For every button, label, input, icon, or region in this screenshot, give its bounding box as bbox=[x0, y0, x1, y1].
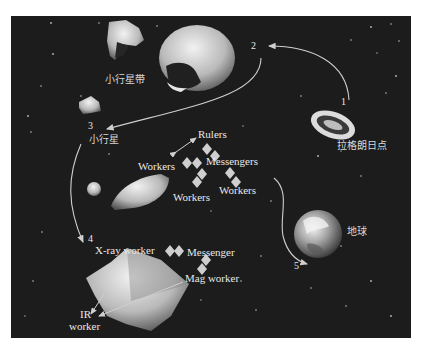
ir-worker-label-line1: IR bbox=[80, 308, 91, 320]
workers-rulers-link bbox=[176, 138, 196, 152]
workers-right-label: Workers bbox=[219, 184, 256, 196]
lagrange-point-label: 拉格朗日点 bbox=[337, 140, 387, 152]
step-3: 3 bbox=[88, 120, 93, 132]
mag-worker-label: Mag worker bbox=[185, 272, 239, 284]
ir-worker-label-line2: worker bbox=[69, 320, 100, 332]
asteroid-rock bbox=[79, 96, 101, 114]
messenger-label: Messenger bbox=[187, 246, 235, 258]
swarm-rock bbox=[111, 174, 169, 210]
diagram-artwork bbox=[11, 16, 411, 338]
messengers-label: Messengers bbox=[206, 155, 258, 167]
earth-label: 地球 bbox=[347, 226, 367, 238]
workers-bottom-label: Workers bbox=[173, 191, 210, 203]
asteroid-belt-label: 小行星带 bbox=[105, 74, 145, 86]
asteroid-belt-small-rock bbox=[107, 20, 144, 60]
asteroid-label: 小行星 bbox=[89, 134, 119, 146]
step-1: 1 bbox=[341, 96, 346, 108]
xray-worker-label: X-ray worker bbox=[95, 244, 155, 256]
trajectory-1-to-2 bbox=[269, 46, 349, 100]
diagram-panel: 小行星带 小行星 拉格朗日点 地球 1 2 3 4 5 Rulers Messe… bbox=[11, 16, 411, 338]
rulers-label: Rulers bbox=[198, 128, 227, 140]
step-4: 4 bbox=[88, 233, 93, 245]
step-2: 2 bbox=[251, 40, 256, 52]
step-5: 5 bbox=[294, 260, 299, 272]
trajectory-3-to-4 bbox=[71, 144, 83, 242]
small-rock bbox=[87, 182, 101, 196]
workers-left-label: Workers bbox=[138, 160, 175, 172]
